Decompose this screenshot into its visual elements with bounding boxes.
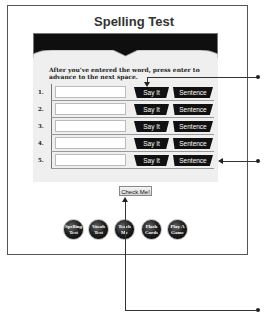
page-title: Spelling Test	[0, 14, 268, 29]
word-row-1: 1. Say It Sentence	[38, 85, 214, 101]
row-separator	[51, 117, 214, 118]
callout-dot-icon	[256, 75, 260, 79]
row-separator	[51, 100, 214, 101]
nav-play-a-game-button[interactable]: Play A Game	[167, 219, 188, 240]
sentence-button-1[interactable]: Sentence	[173, 87, 213, 98]
sentence-button-2[interactable]: Sentence	[173, 104, 213, 115]
check-me-button[interactable]: Check Me!	[119, 186, 152, 196]
nav-label: Vocab Test	[89, 224, 108, 236]
nav-label: Play A Game	[168, 224, 187, 236]
callout-line-2	[222, 161, 258, 162]
say-it-button-4[interactable]: Say It	[134, 138, 169, 149]
callout-arrow-left-icon	[218, 158, 223, 164]
nav-label: Spelling Test	[64, 224, 83, 236]
nav-spelling-test-button[interactable]: Spelling Test	[63, 219, 84, 240]
callout-dot-icon	[256, 159, 260, 163]
word-row-4: 4. Say It Sentence	[38, 136, 214, 152]
nav-flash-cards-button[interactable]: Flash Cards	[141, 219, 162, 240]
callout-line-1	[147, 77, 258, 78]
row-number: 3.	[38, 123, 48, 129]
say-it-button-1[interactable]: Say It	[134, 87, 169, 98]
callout-line-3	[125, 200, 126, 310]
word-row-5: 5. Say It Sentence	[38, 153, 214, 169]
row-number: 4.	[38, 140, 48, 146]
word-row-3: 3. Say It Sentence	[38, 119, 214, 135]
row-number: 2.	[38, 106, 48, 112]
row-separator	[51, 168, 214, 169]
nav-vocab-test-button[interactable]: Vocab Test	[88, 219, 109, 240]
row-separator	[51, 151, 214, 152]
word-row-2: 2. Say It Sentence	[38, 102, 214, 118]
word-input-3[interactable]	[55, 120, 126, 132]
sentence-button-5[interactable]: Sentence	[173, 155, 213, 166]
word-input-5[interactable]	[55, 154, 126, 166]
callout-arrow-down-icon	[144, 82, 150, 87]
callout-line-3-horizontal	[125, 310, 258, 311]
row-number: 1.	[38, 89, 48, 95]
callout-dot-icon	[256, 308, 260, 312]
word-input-1[interactable]	[55, 86, 126, 98]
word-input-4[interactable]	[55, 137, 126, 149]
say-it-button-5[interactable]: Say It	[134, 155, 169, 166]
row-number: 5.	[38, 157, 48, 163]
row-separator	[51, 134, 214, 135]
sentence-button-3[interactable]: Sentence	[173, 121, 213, 132]
callout-arrow-up-icon	[122, 197, 128, 202]
say-it-button-2[interactable]: Say It	[134, 104, 169, 115]
word-input-2[interactable]	[55, 103, 126, 115]
say-it-button-3[interactable]: Say It	[134, 121, 169, 132]
sentence-button-4[interactable]: Sentence	[173, 138, 213, 149]
nav-label: Flash Cards	[142, 224, 161, 236]
